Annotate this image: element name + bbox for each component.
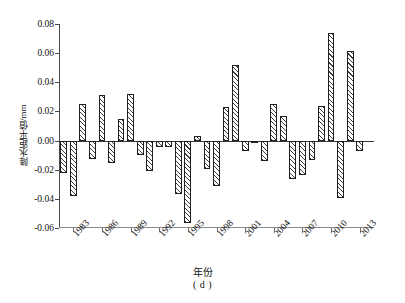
y-axis-tick-label: 0.08 xyxy=(37,19,54,29)
bar xyxy=(337,141,344,198)
bar xyxy=(165,141,172,148)
figure-caption: ( d ) xyxy=(0,279,405,290)
plot-area xyxy=(59,24,374,228)
bar xyxy=(356,141,363,151)
y-axis-tick-mark xyxy=(55,199,59,200)
y-axis-tick-label: 0.02 xyxy=(37,106,54,116)
bar xyxy=(127,94,134,141)
y-axis-tick-mark xyxy=(55,170,59,171)
bar xyxy=(328,33,335,140)
x-axis-title: 年份 xyxy=(0,264,405,279)
precipitation-anomaly-chart: 降水距平值/mm 0.080.060.040.020.00-0.02-0.04-… xyxy=(0,0,405,303)
bar xyxy=(280,116,287,140)
bar xyxy=(79,104,86,140)
y-axis-tick-mark xyxy=(55,82,59,83)
bar xyxy=(184,141,191,223)
y-axis-tick-label: 0.00 xyxy=(37,136,54,146)
bar xyxy=(289,141,296,179)
bar xyxy=(270,104,277,140)
y-axis-line xyxy=(59,24,60,228)
bar xyxy=(137,141,144,156)
bar xyxy=(204,141,211,169)
bar xyxy=(251,141,258,143)
y-axis-tick-label: -0.06 xyxy=(34,223,54,233)
bar xyxy=(223,107,230,140)
bar xyxy=(347,51,354,141)
bar xyxy=(194,136,201,140)
bar xyxy=(146,141,153,172)
y-axis-tick-mark xyxy=(55,141,59,142)
bar xyxy=(60,141,67,174)
y-axis-tick-label: 0.06 xyxy=(37,48,54,58)
y-axis-tick-mark xyxy=(55,111,59,112)
bar xyxy=(89,141,96,159)
bar xyxy=(261,141,268,161)
bar xyxy=(175,141,182,195)
y-axis-tick-mark xyxy=(55,24,59,25)
y-axis-tick-label: -0.02 xyxy=(34,165,54,175)
bar xyxy=(118,119,125,141)
bar xyxy=(242,141,249,152)
bar xyxy=(309,141,316,161)
y-axis-tick-label: -0.04 xyxy=(34,194,54,204)
bar xyxy=(70,141,77,196)
bar xyxy=(299,141,306,176)
bar xyxy=(99,95,106,140)
y-axis-tick-mark xyxy=(55,53,59,54)
bar xyxy=(318,106,325,140)
y-axis-tick-label: 0.04 xyxy=(37,77,54,87)
bar xyxy=(232,65,239,140)
bar xyxy=(156,141,163,148)
y-axis-tick-labels: 0.080.060.040.020.00-0.02-0.04-0.06 xyxy=(22,0,54,303)
bar xyxy=(108,141,115,164)
y-axis-tick-mark xyxy=(55,228,59,229)
bar xyxy=(213,141,220,186)
